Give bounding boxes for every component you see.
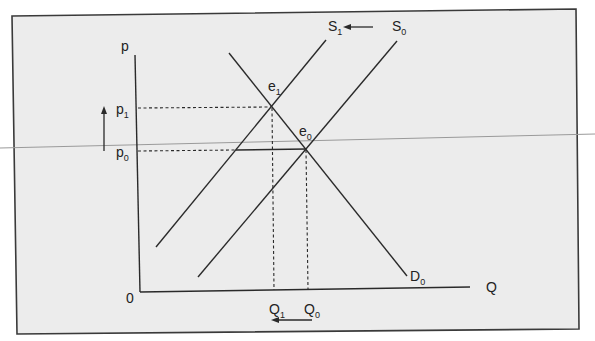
supply-demand-diagram: p Q 0 p1 p0 Q1 Q0 S1 S0 D0 e1 e0: [0, 0, 595, 341]
origin-label: 0: [126, 290, 134, 306]
p0-solid-segment: [236, 149, 306, 150]
diagram-stage: p Q 0 p1 p0 Q1 Q0 S1 S0 D0 e1 e0: [0, 0, 595, 341]
x-axis-label: Q: [486, 279, 497, 295]
y-axis-label: p: [121, 38, 129, 54]
